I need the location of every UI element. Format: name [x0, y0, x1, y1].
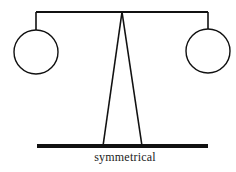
balance-scale-diagram: [0, 0, 236, 172]
left-weight-circle: [14, 30, 58, 74]
fulcrum-left-leg: [103, 12, 122, 146]
right-weight-circle: [186, 29, 230, 73]
fulcrum-right-leg: [122, 12, 142, 146]
diagram-caption: symmetrical: [0, 150, 236, 165]
